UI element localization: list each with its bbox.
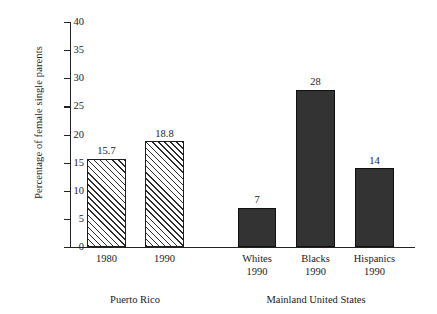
y-tick-label-25: 25 bbox=[58, 101, 84, 112]
group-label-mainland-united-states: Mainland United States bbox=[266, 294, 365, 305]
bar-mainland-hispanics-1990[interactable]: 14 bbox=[355, 168, 394, 247]
bar-mainland-whites-1990[interactable]: 7 bbox=[238, 208, 276, 247]
y-tick-label-5: 5 bbox=[58, 213, 84, 224]
group-label-puerto-rico: Puerto Rico bbox=[110, 294, 160, 305]
bar-puerto-rico-1990[interactable]: 18.8 bbox=[145, 141, 184, 247]
bar-value-label: 18.8 bbox=[155, 129, 173, 140]
x-label-line1: 1980 bbox=[96, 253, 117, 264]
x-label-line2: 1990 bbox=[242, 266, 272, 279]
x-label-line1: 1990 bbox=[154, 253, 175, 264]
x-label-line2: 1990 bbox=[354, 266, 395, 279]
x-label-whites-1990: Whites 1990 bbox=[242, 253, 272, 278]
bar-value-label: 14 bbox=[369, 156, 380, 167]
y-tick-label-35: 35 bbox=[58, 45, 84, 56]
y-axis-title: Percentage of female single parents bbox=[33, 23, 44, 223]
plot-area: 40 35 30 25 20 15 10 5 0 15.7 18.8 7 28 bbox=[70, 22, 415, 247]
bar-value-label: 15.7 bbox=[97, 146, 115, 157]
x-axis-line bbox=[70, 247, 415, 248]
y-tick-label-15: 15 bbox=[58, 157, 84, 168]
x-label-line1: Whites bbox=[242, 253, 272, 264]
x-label-1980: 1980 bbox=[96, 253, 117, 266]
y-tick-label-20: 20 bbox=[58, 129, 84, 140]
y-tick-label-10: 10 bbox=[58, 185, 84, 196]
y-tick-label-40: 40 bbox=[58, 17, 84, 28]
bar-value-label: 7 bbox=[254, 195, 259, 206]
y-tick-label-0: 0 bbox=[58, 242, 84, 253]
x-label-line1: Blacks bbox=[301, 253, 330, 264]
x-label-line2: 1990 bbox=[301, 266, 330, 279]
y-tick-label-30: 30 bbox=[58, 73, 84, 84]
bar-puerto-rico-1980[interactable]: 15.7 bbox=[87, 159, 126, 247]
x-label-blacks-1990: Blacks 1990 bbox=[301, 253, 330, 278]
bar-chart: Percentage of female single parents 40 3… bbox=[0, 0, 437, 314]
x-label-1990: 1990 bbox=[154, 253, 175, 266]
bar-value-label: 28 bbox=[310, 77, 321, 88]
x-label-line1: Hispanics bbox=[354, 253, 395, 264]
x-label-hispanics-1990: Hispanics 1990 bbox=[354, 253, 395, 278]
bar-mainland-blacks-1990[interactable]: 28 bbox=[296, 90, 335, 248]
